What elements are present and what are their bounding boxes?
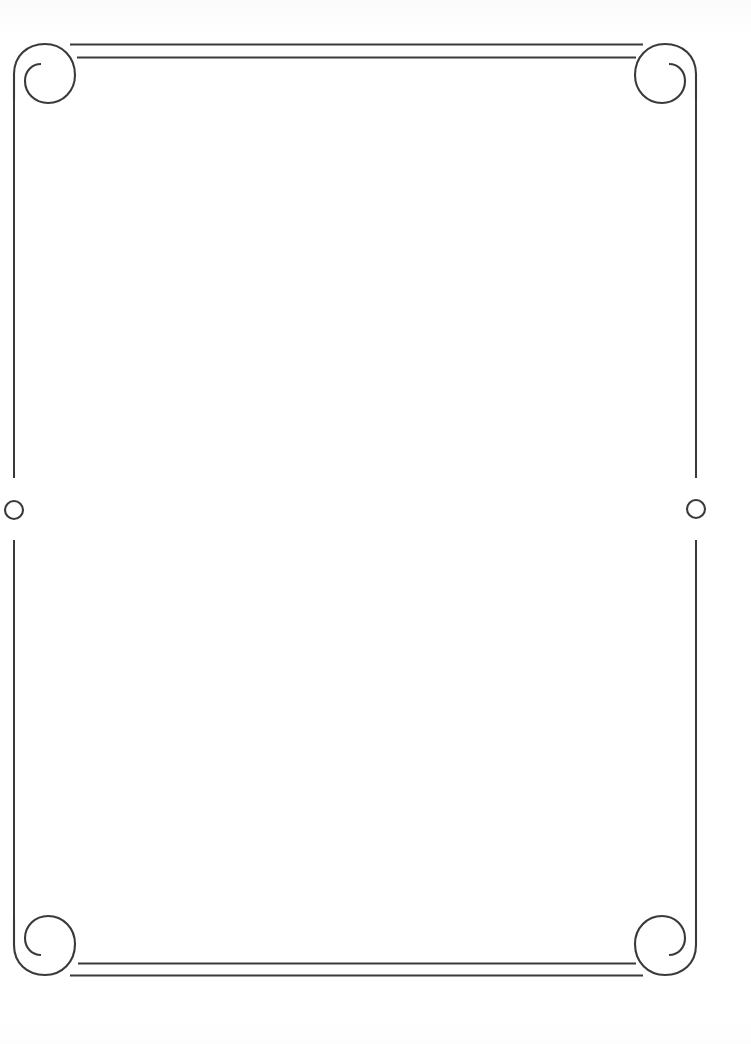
page-canvas: [0, 0, 751, 1044]
right-circle-medallion: [687, 500, 705, 518]
left-circle-medallion: [5, 501, 23, 519]
frame-content-area: [24, 70, 686, 950]
